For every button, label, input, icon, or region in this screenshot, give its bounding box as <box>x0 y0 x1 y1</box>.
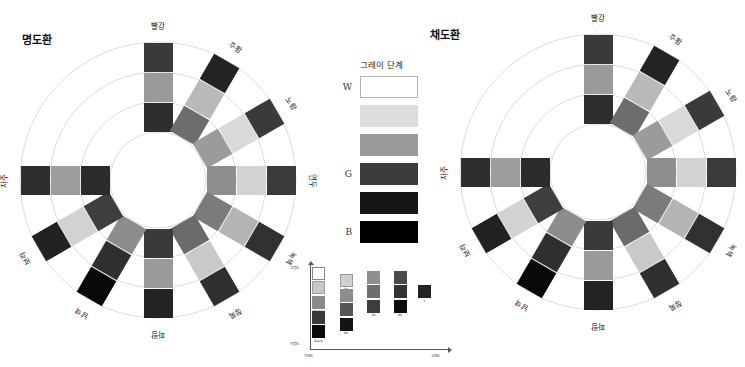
swatch-파랑-3 <box>584 281 613 310</box>
chart-x-axis <box>310 349 450 350</box>
swatch-빨강-3 <box>584 35 613 64</box>
swatch-파랑-2 <box>584 251 613 280</box>
guide-ring-0 <box>550 124 646 220</box>
chart-y-axis <box>310 265 311 349</box>
chart-point-9b <box>394 300 407 313</box>
gray-step-light-gray <box>360 105 418 127</box>
gray-step-label-G: G <box>336 169 352 179</box>
chart-point-label-9b: 9b <box>388 313 412 317</box>
gray-step-white <box>360 76 418 98</box>
swatch-연두-2 <box>677 158 706 187</box>
spoke-label-자주: 자주 <box>438 159 449 187</box>
chart-point-4 <box>367 271 380 284</box>
swatch-자주-2 <box>491 158 520 187</box>
swatch-연두-1 <box>647 158 676 187</box>
spoke-label-빨강: 빨강 <box>584 12 612 23</box>
chart-point-6 <box>394 271 407 284</box>
chart-point-2b <box>367 300 380 313</box>
spoke-label-파랑: 파랑 <box>584 322 612 333</box>
chart-y-top-label: 고명도 <box>290 265 299 270</box>
swatch-빨강-2 <box>584 65 613 94</box>
chart-y-axis-arrow <box>308 261 314 265</box>
chart-point-label-8b: 8b <box>334 331 358 335</box>
swatch-파랑-1 <box>584 221 613 250</box>
chart-point-5p <box>340 274 353 287</box>
swatch-자주-1 <box>521 158 550 187</box>
chart-x-axis-arrow <box>448 347 452 353</box>
swatch-연두-3 <box>707 158 736 187</box>
chart-point-label-Black: Black <box>307 339 331 343</box>
chart-point-3 <box>367 285 380 298</box>
chart-point-White <box>312 267 325 280</box>
chart-y-bottom-label: 저명도 <box>290 341 299 346</box>
chart-point-M.gray <box>312 296 325 309</box>
swatch-자주-3 <box>461 158 490 187</box>
gray-step-black <box>360 221 418 243</box>
tone-matrix-chart: 고명도 저명도 저채도 고채도 WhiteL.grayM.grayD.grayB… <box>288 263 456 363</box>
gray-step-mid-gray <box>360 134 418 156</box>
gray-step-label-B: B <box>336 227 352 237</box>
chart-point-label-2b: 2b <box>362 313 386 317</box>
chart-point-Black <box>312 325 325 338</box>
chart-point-4b <box>340 303 353 316</box>
chart-point-label-1: 1 <box>412 299 436 303</box>
chart-x-right-label: 고채도 <box>431 353 440 358</box>
chart-x-left-label: 저채도 <box>304 353 313 358</box>
gray-step-near-black <box>360 192 418 214</box>
gray-step-dark-gray <box>360 163 418 185</box>
chart-point-Light <box>340 289 353 302</box>
chart-point-2 <box>394 285 407 298</box>
chart-point-1 <box>418 285 431 298</box>
gray-scale-legend-title: 그레이 단계 <box>360 58 403 70</box>
swatch-빨강-1 <box>584 95 613 124</box>
poster-canvas: 명도환빨강주황노랑연두녹색청록파랑남색보라자주 채도환빨강주황노랑연두녹색청록파… <box>0 0 745 367</box>
chart-point-L.gray <box>312 281 325 294</box>
saturation-wheel-title: 채도환 <box>430 26 461 42</box>
gray-step-label-W: W <box>336 82 352 92</box>
chart-point-D.gray <box>312 311 325 324</box>
chart-point-8b <box>340 318 353 331</box>
